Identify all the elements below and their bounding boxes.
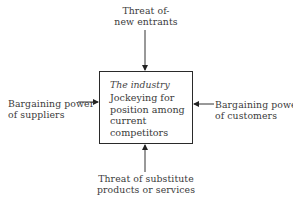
label-customers-line2: of customers	[215, 110, 293, 121]
industry-description: Jockeying for position among current com…	[110, 92, 190, 138]
industry-title: The industry	[110, 79, 170, 90]
industry-box: The industry Jockeying for position amon…	[99, 71, 193, 144]
label-customers: Bargaining power of customers	[215, 99, 293, 121]
label-new-entrants-line1: Threat of-	[104, 5, 188, 16]
label-substitutes-line1: Threat of substitute	[94, 173, 198, 184]
label-suppliers-line2: of suppliers	[8, 109, 94, 120]
label-new-entrants: Threat of- new entrants	[104, 5, 188, 27]
label-suppliers-line1: Bargaining power	[8, 98, 94, 109]
label-suppliers: Bargaining power of suppliers	[8, 98, 94, 120]
label-new-entrants-line2: new entrants	[104, 16, 188, 27]
label-substitutes-line2: products or services	[94, 184, 198, 195]
label-customers-line1: Bargaining power	[215, 99, 293, 110]
label-substitutes: Threat of substitute products or service…	[94, 173, 198, 195]
